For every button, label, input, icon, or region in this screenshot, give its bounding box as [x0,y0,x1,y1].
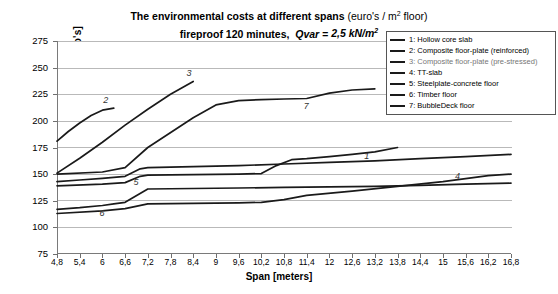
legend-swatch-7 [390,105,405,107]
series-label-1: 1 [364,151,369,161]
series-label-2: 2 [103,95,108,105]
y-tick-mark-150 [53,174,57,175]
x-tick-mark-6 [102,254,103,258]
y-tick-mark-100 [53,227,57,228]
legend-label-7: 7: BubbleDeck floor [409,101,474,110]
legend-label-4: 4: TT-slab [409,68,442,77]
y-tick-100: 100 [18,221,48,232]
chart-screenshot: The environmental costs at different spa… [0,0,558,294]
legend-item-3[interactable]: 3: Composite floor-plate (pre-stressed) [390,56,552,67]
legend-label-5: 5: Steelplate-concrete floor [409,79,499,88]
x-tick-mark-16,8 [511,254,512,258]
x-tick-mark-12,6 [352,254,353,258]
series-label-3: 3 [186,68,191,78]
y-tick-275: 275 [18,35,48,46]
legend-swatch-5 [390,83,405,85]
legend-label-2: 2: Composite floor-plate (reinforced) [409,46,529,55]
legend-swatch-1 [390,39,405,41]
y-tick-mark-275 [53,41,57,42]
legend: 1: Hollow core slab2: Composite floor-pl… [386,31,556,115]
x-tick-mark-4,8 [57,254,58,258]
x-tick-mark-14,4 [420,254,421,258]
x-tick-mark-12 [329,254,330,258]
x-tick-mark-10,8 [284,254,285,258]
y-tick-175: 175 [18,142,48,153]
y-tick-mark-175 [53,148,57,149]
y-tick-250: 250 [18,62,48,73]
x-tick-mark-7,8 [171,254,172,258]
legend-item-7[interactable]: 7: BubbleDeck floor [390,100,552,111]
x-tick-mark-15 [443,254,444,258]
y-tick-150: 150 [18,168,48,179]
legend-item-4[interactable]: 4: TT-slab [390,67,552,78]
curve-4 [57,174,511,213]
x-tick-mark-10,2 [261,254,262,258]
legend-swatch-4 [390,72,405,74]
x-axis-label: Span [meters] [0,271,558,282]
series-label-4: 4 [455,171,460,181]
y-tick-225: 225 [18,88,48,99]
x-tick-mark-13,2 [375,254,376,258]
y-tick-mark-250 [53,68,57,69]
x-tick-mark-9,6 [239,254,240,258]
x-tick-mark-6,6 [125,254,126,258]
x-tick-mark-13,8 [398,254,399,258]
x-tick-16,8: 16,8 [496,257,526,267]
legend-swatch-3 [390,61,405,63]
y-tick-mark-225 [53,94,57,95]
x-tick-mark-16,2 [488,254,489,258]
legend-item-2[interactable]: 2: Composite floor-plate (reinforced) [390,45,552,56]
legend-label-1: 1: Hollow core slab [409,35,472,44]
y-tick-125: 125 [18,195,48,206]
y-tick-200: 200 [18,115,48,126]
curve-2 [57,108,114,141]
x-tick-mark-11,4 [307,254,308,258]
legend-label-6: 6: Timber floor [409,90,457,99]
legend-swatch-2 [390,50,405,52]
series-label-6: 6 [99,208,104,218]
legend-item-5[interactable]: 5: Steelplate-concrete floor [390,78,552,89]
curve-3 [57,82,193,174]
curve-6 [57,183,511,209]
legend-item-6[interactable]: 6: Timber floor [390,89,552,100]
x-tick-mark-9 [216,254,217,258]
x-tick-mark-15,6 [466,254,467,258]
y-tick-mark-125 [53,201,57,202]
y-tick-mark-200 [53,121,57,122]
legend-label-3: 3: Composite floor-plate (pre-stressed) [409,57,537,66]
x-tick-mark-7,2 [148,254,149,258]
legend-swatch-6 [390,94,405,96]
x-tick-mark-8,4 [193,254,194,258]
series-label-7: 7 [304,101,309,111]
x-tick-mark-5,4 [80,254,81,258]
legend-item-1[interactable]: 1: Hollow core slab [390,34,552,45]
series-label-5: 5 [133,177,138,187]
